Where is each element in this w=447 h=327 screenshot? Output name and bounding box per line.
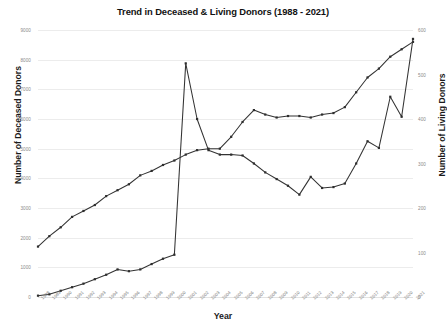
data-point-marker xyxy=(151,170,153,172)
plot-area xyxy=(38,30,413,297)
y-axis-right-tick-label: 100 xyxy=(418,250,426,255)
data-point-marker xyxy=(241,154,243,156)
data-point-marker xyxy=(82,283,84,285)
y-axis-right-tick-label: 500 xyxy=(418,72,426,77)
y-axis-right-tick-label: 200 xyxy=(418,206,426,211)
y-axis-left-tick-label: 7000 xyxy=(20,87,31,92)
data-point-marker xyxy=(332,186,334,188)
data-point-marker xyxy=(139,268,141,270)
data-point-marker xyxy=(321,187,323,189)
series-line-1 xyxy=(38,42,413,247)
data-point-marker xyxy=(207,149,209,151)
data-point-marker xyxy=(196,149,198,151)
data-point-marker xyxy=(366,140,368,142)
data-point-marker xyxy=(60,226,62,228)
y-axis-left-tick-label: 4000 xyxy=(20,176,31,181)
data-point-marker xyxy=(310,116,312,118)
x-axis-title: Year xyxy=(0,311,446,321)
data-point-marker xyxy=(116,268,118,270)
data-point-marker xyxy=(253,162,255,164)
data-point-marker xyxy=(37,245,39,247)
data-point-marker xyxy=(219,148,221,150)
y-axis-left-ticks: 0100020003000400050006000700080009000 xyxy=(0,30,34,297)
data-point-marker xyxy=(162,164,164,166)
data-point-marker xyxy=(105,274,107,276)
data-point-marker xyxy=(401,48,403,50)
y-axis-left-tick-label: 3000 xyxy=(20,206,31,211)
data-point-marker xyxy=(128,183,130,185)
data-point-marker xyxy=(173,159,175,161)
y-axis-left-tick-label: 5000 xyxy=(20,146,31,151)
data-point-marker xyxy=(219,154,221,156)
data-point-marker xyxy=(128,270,130,272)
data-point-marker xyxy=(378,67,380,69)
data-point-marker xyxy=(344,106,346,108)
data-point-marker xyxy=(310,176,312,178)
series-lines xyxy=(38,30,413,297)
data-point-marker xyxy=(105,195,107,197)
y-axis-right-tick-label: 600 xyxy=(418,28,426,33)
data-point-marker xyxy=(366,76,368,78)
data-point-marker xyxy=(276,116,278,118)
data-point-marker xyxy=(162,258,164,260)
y-axis-left-tick-label: 6000 xyxy=(20,117,31,122)
data-point-marker xyxy=(355,91,357,93)
y-axis-right-title: Number of Living Donors xyxy=(437,50,447,200)
y-axis-left-tick-label: 8000 xyxy=(20,57,31,62)
data-point-marker xyxy=(230,154,232,156)
data-point-marker xyxy=(298,194,300,196)
data-point-marker xyxy=(173,254,175,256)
data-point-marker xyxy=(241,121,243,123)
data-point-marker xyxy=(298,115,300,117)
data-point-marker xyxy=(71,216,73,218)
data-point-marker xyxy=(230,136,232,138)
y-axis-left-tick-label: 2000 xyxy=(20,235,31,240)
y-axis-right-tick-label: 400 xyxy=(418,117,426,122)
data-point-marker xyxy=(378,147,380,149)
data-point-marker xyxy=(185,154,187,156)
chart-title: Trend in Deceased & Living Donors (1988 … xyxy=(0,6,446,17)
y-axis-left-tick-label: 0 xyxy=(28,295,31,300)
data-point-marker xyxy=(389,96,391,98)
data-point-marker xyxy=(287,185,289,187)
data-point-marker xyxy=(139,174,141,176)
y-axis-left-tick-label: 1000 xyxy=(20,265,31,270)
data-point-marker xyxy=(264,171,266,173)
data-point-marker xyxy=(321,113,323,115)
y-axis-left-tick-label: 9000 xyxy=(20,28,31,33)
y-axis-right-tick-label: 300 xyxy=(418,161,426,166)
data-point-marker xyxy=(253,109,255,111)
data-point-marker xyxy=(116,189,118,191)
data-point-marker xyxy=(344,182,346,184)
data-point-marker xyxy=(71,286,73,288)
data-point-marker xyxy=(196,118,198,120)
data-point-marker xyxy=(48,235,50,237)
data-point-marker xyxy=(94,204,96,206)
data-point-marker xyxy=(412,38,414,40)
data-point-marker xyxy=(185,62,187,64)
data-point-marker xyxy=(401,116,403,118)
data-point-marker xyxy=(94,278,96,280)
data-point-marker xyxy=(332,112,334,114)
data-point-marker xyxy=(82,210,84,212)
data-point-marker xyxy=(151,263,153,265)
data-point-marker xyxy=(287,115,289,117)
data-point-marker xyxy=(389,56,391,58)
data-point-marker xyxy=(264,113,266,115)
series-line-2 xyxy=(38,39,413,296)
data-point-marker xyxy=(355,162,357,164)
data-point-marker xyxy=(276,178,278,180)
